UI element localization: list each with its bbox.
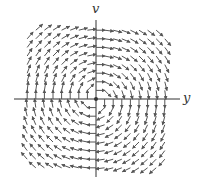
field-arrow xyxy=(113,73,121,78)
field-arrow xyxy=(53,34,60,39)
field-arrow xyxy=(133,133,139,140)
field-arrow xyxy=(44,73,47,82)
field-arrow xyxy=(87,78,95,82)
field-arrow xyxy=(87,84,93,90)
field-arrow xyxy=(150,159,156,165)
field-arrow xyxy=(139,39,146,44)
field-arrow xyxy=(144,125,148,133)
field-arrow xyxy=(122,39,130,43)
field-arrow xyxy=(156,73,160,81)
field-arrow xyxy=(70,82,73,91)
field-arrow xyxy=(62,26,70,30)
field-arrow xyxy=(122,82,127,90)
field-arrow xyxy=(70,139,78,142)
field-arrow xyxy=(139,30,147,35)
field-arrow xyxy=(48,117,53,125)
field-arrow xyxy=(47,136,53,142)
field-arrow xyxy=(87,46,96,48)
field-arrow xyxy=(113,90,117,98)
field-arrow xyxy=(64,118,70,124)
field-arrow xyxy=(79,36,88,39)
field-arrow xyxy=(113,168,121,171)
field-arrow xyxy=(55,136,62,142)
field-arrow xyxy=(51,99,53,108)
field-arrow xyxy=(75,100,79,108)
field-arrow xyxy=(36,32,42,38)
field-arrow xyxy=(148,82,151,91)
field-arrow xyxy=(32,117,36,125)
field-arrow xyxy=(105,90,111,96)
field-arrow xyxy=(114,159,122,163)
field-arrow xyxy=(79,82,83,90)
field-arrow xyxy=(160,142,165,150)
field-arrow xyxy=(87,70,96,73)
field-arrow xyxy=(87,54,96,56)
field-arrow xyxy=(38,144,44,150)
field-arrow xyxy=(146,108,148,117)
field-arrow xyxy=(109,108,113,116)
field-arrow xyxy=(105,142,113,145)
field-arrow xyxy=(96,151,105,153)
field-arrow xyxy=(54,155,62,160)
field-arrow xyxy=(130,56,137,62)
field-arrow xyxy=(122,56,130,61)
field-arrow xyxy=(55,127,61,133)
field-arrow xyxy=(29,153,35,159)
field-arrow xyxy=(79,112,87,116)
field-arrow xyxy=(44,33,51,39)
field-arrow xyxy=(130,47,138,52)
field-arrow xyxy=(72,110,78,116)
field-arrow xyxy=(70,51,78,56)
field-arrow xyxy=(136,116,139,124)
field-arrow xyxy=(113,30,122,32)
field-arrow xyxy=(122,73,128,79)
field-arrow xyxy=(22,134,27,142)
field-arrow xyxy=(62,74,66,82)
field-arrow xyxy=(62,34,70,39)
field-arrow xyxy=(53,58,59,65)
field-arrow xyxy=(27,57,31,65)
field-arrow xyxy=(70,59,77,64)
field-arrow xyxy=(115,133,122,138)
field-arrow xyxy=(148,65,153,73)
field-arrow xyxy=(130,39,138,44)
horizontal-axis-label: y xyxy=(183,90,190,105)
field-arrow xyxy=(23,125,27,133)
field-arrow xyxy=(59,99,61,108)
field-arrow xyxy=(31,135,36,142)
field-arrow xyxy=(79,167,88,168)
field-arrow xyxy=(31,126,36,134)
field-arrow xyxy=(79,75,85,81)
field-arrow xyxy=(79,149,88,151)
field-arrow xyxy=(79,53,87,56)
field-arrow xyxy=(21,152,27,159)
field-arrow xyxy=(143,133,148,141)
field-arrow xyxy=(44,25,51,30)
field-arrow xyxy=(105,73,114,76)
field-arrow xyxy=(156,82,159,91)
field-arrow xyxy=(114,151,122,155)
field-arrow xyxy=(123,159,131,164)
field-arrow xyxy=(130,73,135,80)
field-arrow xyxy=(71,129,79,133)
field-arrow xyxy=(70,166,79,168)
field-arrow xyxy=(117,116,122,124)
field-arrow xyxy=(125,125,130,132)
field-arrow xyxy=(87,29,96,30)
field-arrow xyxy=(132,151,139,157)
field-arrow xyxy=(62,82,64,91)
field-arrow xyxy=(156,39,162,45)
field-arrow xyxy=(27,73,29,82)
field-arrow xyxy=(50,108,53,116)
field-arrow xyxy=(159,159,165,166)
field-arrow xyxy=(44,57,49,65)
field-arrow xyxy=(148,90,150,99)
field-arrow xyxy=(113,39,122,42)
field-arrow xyxy=(148,30,155,35)
field-arrow xyxy=(105,56,114,58)
field-arrow xyxy=(79,158,88,159)
field-arrow xyxy=(27,40,32,47)
field-arrow xyxy=(148,39,155,45)
field-arrow xyxy=(105,159,114,162)
field-arrow xyxy=(130,65,136,71)
